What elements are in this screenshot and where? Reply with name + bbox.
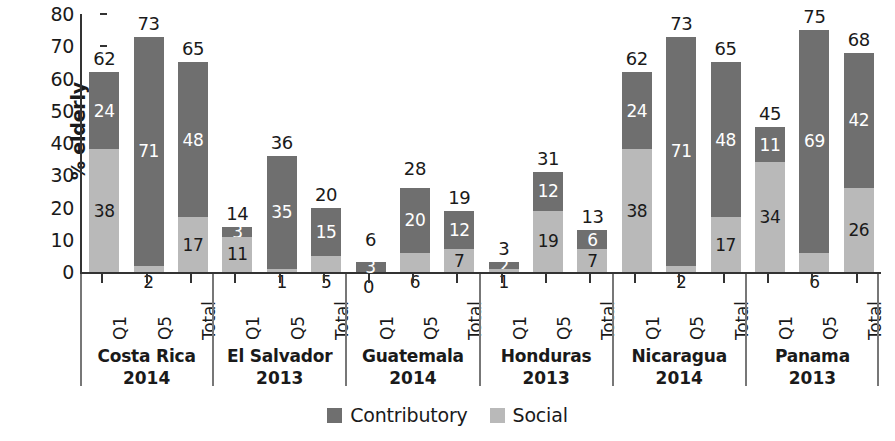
segment-social: 38 [89,149,119,272]
group-country-label: Costa Rica [80,346,213,366]
legend-label: Contributory [350,404,467,426]
bar-total-value: 45 [741,103,799,124]
legend-swatch-icon [490,408,505,423]
x-tick-mark [190,274,192,283]
segment-value-social: 17 [178,235,208,255]
group-country-label: Guatemala [346,346,479,366]
bar-total-value: 36 [253,132,311,153]
segment-contributory: 15 [311,208,341,256]
x-tick-mark [678,274,680,283]
segment-social: 11 [222,237,252,272]
x-tick-label-q1: Q1 [377,316,397,340]
segment-contributory: 20 [400,188,430,253]
segment-social: 6 [799,253,829,272]
x-tick-label-q1: Q1 [110,316,130,340]
bar-total-value: 20 [297,184,355,205]
segment-social: 1 [267,269,297,272]
y-tick-label: 40 [34,132,74,154]
segment-value-contributory: 12 [444,220,474,240]
bar-total-value: 65 [697,38,755,59]
segment-social: 26 [844,188,874,272]
segment-value-social: 34 [755,207,785,227]
segment-social: 7 [577,249,607,272]
x-tick-label-q1: Q1 [643,316,663,340]
group-year-label: 2014 [346,368,479,388]
segment-value-social: 7 [444,251,474,271]
segment-value-contributory: 20 [400,210,430,230]
bar-total-value: 73 [120,13,178,34]
y-tick-label: 30 [34,164,74,186]
group-country-label: Nicaragua [613,346,746,366]
segment-social: 6 [400,253,430,272]
segment-value-contributory: 24 [622,101,652,121]
group-year-label: 2013 [480,368,613,388]
segment-contributory: 42 [844,53,874,188]
segment-contributory: 71 [666,37,696,266]
bar-total-value: 14 [208,203,266,224]
x-tick-label-total: Total [332,301,352,340]
legend-swatch-icon [327,408,342,423]
segment-value-contributory: 71 [134,141,164,161]
segment-value-social: 19 [533,231,563,251]
x-tick-mark [412,274,414,283]
segment-contributory: 24 [89,72,119,149]
legend-label: Social [513,404,568,426]
segment-value-contributory: 48 [178,130,208,150]
x-tick-label-total: Total [732,301,752,340]
x-tick-label-q5: Q5 [820,316,840,340]
group-country-label: El Salvador [213,346,346,366]
legend-item-contributory[interactable]: Contributory [327,404,467,426]
segment-contributory: 3 [356,262,386,272]
x-tick-label-q1: Q1 [510,316,530,340]
x-tick-label-q1: Q1 [776,316,796,340]
segment-contributory: 11 [755,127,785,162]
legend-item-social[interactable]: Social [490,404,568,426]
segment-contributory: 3 [222,227,252,237]
x-tick-label-q5: Q5 [421,316,441,340]
bar-total-value: 19 [430,187,488,208]
x-zone-border [877,274,879,386]
segment-value-social: 38 [89,201,119,221]
x-tick-mark [279,274,281,283]
segment-social: 1 [489,269,519,272]
segment-value-contributory: 35 [267,202,297,222]
segment-value-social: 11 [222,244,252,264]
bar-total-value: 3 [475,238,533,259]
segment-value-contributory: 24 [89,101,119,121]
x-axis-zone: Q1Q5TotalCosta Rica2014Q1Q5TotalEl Salva… [80,274,881,386]
x-tick-mark [856,274,858,283]
segment-value-contributory: 71 [666,141,696,161]
bar-total-value: 65 [164,38,222,59]
bar-total-value: 13 [563,206,621,227]
chart-legend: ContributorySocial [0,404,895,426]
group-year-label: 2013 [746,368,879,388]
segment-social: 38 [622,149,652,272]
x-tick-mark [634,274,636,283]
y-axis-ticks: 01020304050607080 [26,0,74,441]
bar-total-value: 68 [830,29,888,50]
segment-value-contributory: 69 [799,131,829,151]
y-tick-label: 0 [34,261,74,283]
x-tick-label-q5: Q5 [554,316,574,340]
plot-area: 2438627127348176531114351361552036206281… [82,14,881,272]
x-tick-label-q5: Q5 [288,316,308,340]
y-tick-label: 50 [34,100,74,122]
segment-value-social: 26 [844,220,874,240]
x-tick-mark [723,274,725,283]
segment-value-social: 7 [577,251,607,271]
bar-total-value: 75 [785,6,843,27]
segment-value-contributory: 12 [533,181,563,201]
group-country-label: Panama [746,346,879,366]
x-tick-mark [368,274,370,283]
segment-contributory: 12 [533,172,563,211]
segment-contributory: 12 [444,211,474,250]
x-tick-label-q1: Q1 [243,316,263,340]
x-tick-mark [589,274,591,283]
y-tick-label: 70 [34,35,74,57]
x-tick-label-total: Total [865,301,885,340]
bar-total-value: 73 [652,13,710,34]
segment-value-contributory: 6 [577,230,607,250]
segment-social: 17 [711,217,741,272]
segment-value-contributory: 15 [311,222,341,242]
y-tick-label: 20 [34,197,74,219]
